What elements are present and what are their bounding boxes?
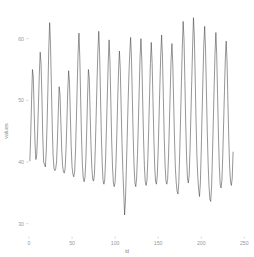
y-tick-label: 60 [18, 36, 24, 42]
x-tick-label: 200 [197, 240, 206, 246]
y-tick-label: 50 [18, 97, 24, 103]
x-tick-label: 0 [28, 240, 31, 246]
y-tick-label: 40 [18, 159, 24, 165]
x-tick-label: 250 [240, 240, 249, 246]
y-axis-title: values [3, 123, 9, 139]
chart-figure: 050100150200250 30405060 id values [0, 0, 254, 257]
x-tick-label: 100 [111, 240, 120, 246]
y-tick-label: 30 [18, 221, 24, 227]
line-chart-svg: 050100150200250 30405060 id values [0, 0, 254, 257]
x-axis-title: id [125, 248, 129, 254]
x-tick-label: 50 [69, 240, 75, 246]
x-tick-label: 150 [154, 240, 163, 246]
